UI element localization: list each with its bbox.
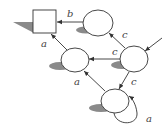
- label-a-middle: a: [74, 76, 80, 87]
- edge-mid-to-final: [51, 34, 67, 50]
- initial-arrow: [145, 38, 162, 51]
- state-diagram: b a c c c a a: [0, 0, 167, 130]
- state-bottom: [101, 89, 129, 113]
- label-c-upper: c: [122, 29, 128, 40]
- label-b: b: [67, 8, 73, 19]
- label-a-loop: a: [146, 113, 152, 124]
- label-a-left: a: [41, 38, 47, 49]
- final-state-square: [33, 10, 56, 33]
- state-mid: [61, 48, 89, 72]
- edge-bottom-to-mid: [84, 71, 105, 91]
- square-shadow: [13, 22, 34, 33]
- label-c-lower: c: [131, 76, 137, 87]
- edge-right-to-bottom: [119, 72, 129, 89]
- state-right: [120, 46, 148, 72]
- label-c-middle: c: [112, 46, 118, 57]
- state-top: [83, 10, 113, 36]
